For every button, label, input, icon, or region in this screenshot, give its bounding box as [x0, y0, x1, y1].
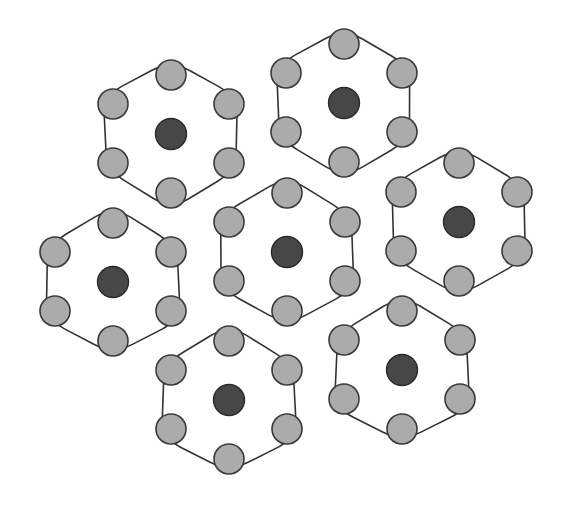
cluster-left-outer-node — [98, 208, 128, 238]
cluster-bottom-center-outer-node — [272, 414, 302, 444]
cluster-right-outer-node — [444, 148, 474, 178]
cluster-bottom-center-outer-node — [156, 414, 186, 444]
cluster-center-outer-node — [330, 266, 360, 296]
cluster-right-outer-node — [386, 236, 416, 266]
cluster-bottom-right-outer-node — [445, 384, 475, 414]
cluster-right-center-node — [444, 207, 475, 238]
cluster-bottom-center-outer-node — [214, 444, 244, 474]
cluster-left-outer-node — [156, 237, 186, 267]
cluster-bottom-center-outer-node — [156, 355, 186, 385]
cluster-bottom-center-outer-node — [272, 355, 302, 385]
cluster-bottom-right-outer-node — [329, 325, 359, 355]
cluster-top-center-outer-node — [387, 58, 417, 88]
cluster-top-center-outer-node — [271, 117, 301, 147]
cluster-center-outer-node — [214, 266, 244, 296]
cluster-right-outer-node — [386, 177, 416, 207]
cluster-center-outer-node — [272, 178, 302, 208]
cluster-center-center-node — [272, 237, 303, 268]
cluster-bottom-center-center-node — [214, 385, 245, 416]
cluster-top-center-outer-node — [387, 117, 417, 147]
cluster-right-outer-node — [502, 236, 532, 266]
cluster-top-left-outer-node — [98, 148, 128, 178]
cluster-bottom-center-outer-node — [214, 326, 244, 356]
cluster-top-left-outer-node — [156, 60, 186, 90]
cluster-right-outer-node — [502, 177, 532, 207]
cluster-bottom-right-outer-node — [329, 384, 359, 414]
cluster-bottom-right-center-node — [387, 355, 418, 386]
cluster-center-outer-node — [272, 296, 302, 326]
cluster-center-outer-node — [330, 207, 360, 237]
cluster-diagram — [0, 0, 571, 508]
cluster-top-left-center-node — [156, 119, 187, 150]
cluster-top-center-outer-node — [329, 29, 359, 59]
cluster-top-left-outer-node — [156, 178, 186, 208]
cluster-left-outer-node — [98, 326, 128, 356]
cluster-bottom-right-outer-node — [387, 296, 417, 326]
cluster-center-outer-node — [214, 207, 244, 237]
cluster-top-left-outer-node — [98, 89, 128, 119]
cluster-bottom-right-outer-node — [387, 414, 417, 444]
cluster-top-center-outer-node — [271, 58, 301, 88]
cluster-top-center-outer-node — [329, 147, 359, 177]
cluster-top-left-outer-node — [214, 148, 244, 178]
cluster-left-center-node — [98, 267, 129, 298]
cluster-left-outer-node — [40, 237, 70, 267]
cluster-bottom-right-outer-node — [445, 325, 475, 355]
cluster-right-outer-node — [444, 266, 474, 296]
cluster-top-left-outer-node — [214, 89, 244, 119]
cluster-left-outer-node — [40, 296, 70, 326]
cluster-top-center-center-node — [329, 88, 360, 119]
cluster-left-outer-node — [156, 296, 186, 326]
